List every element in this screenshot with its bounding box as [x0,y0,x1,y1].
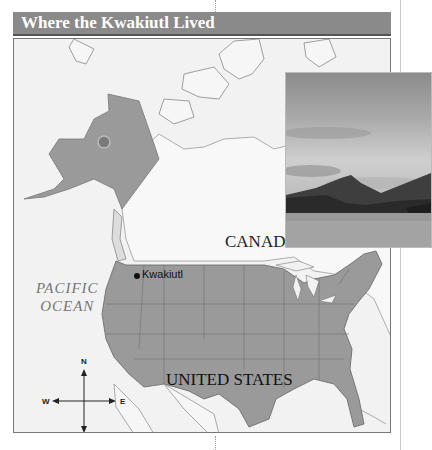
coastal-mountains-image [286,73,431,247]
ocean-label-line2: OCEAN [36,297,99,315]
map-title: Where the Kwakiutl Lived [21,13,215,33]
compass-west: W [42,397,50,406]
compass-east: E [120,397,125,406]
compass-arrows-icon [44,361,124,433]
compass-rose: N S W E [44,361,124,433]
kwakiutl-label: Kwakiutl [142,268,183,280]
united-states-label: UNITED STATES [166,370,293,390]
page-divider-bottom [215,436,216,450]
map-title-bar: Where the Kwakiutl Lived [13,12,391,36]
pacific-ocean-label: PACIFIC OCEAN [36,279,99,315]
ocean-label-line1: PACIFIC [36,279,99,297]
page-divider-top [215,0,216,12]
landscape-photo [285,72,432,248]
compass-north: N [81,357,87,366]
kwakiutl-location-marker [134,273,140,279]
